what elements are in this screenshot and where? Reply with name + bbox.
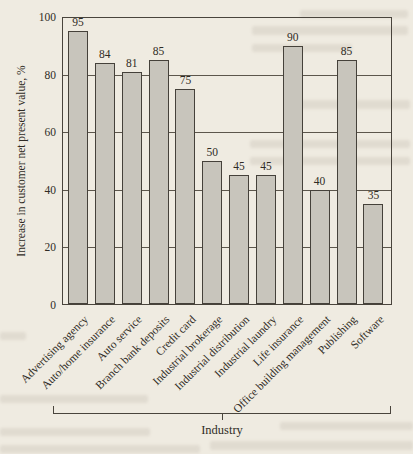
- bar-value-label-publishing: 85: [329, 45, 365, 58]
- y-tick-label-20: 20: [24, 240, 56, 254]
- bleed-through-text: [0, 428, 150, 436]
- bar-publishing: [337, 60, 357, 304]
- bleed-through-text: [0, 395, 148, 403]
- bar-value-label-industrial-brokerage: 50: [194, 146, 230, 159]
- y-tick-label-0: 0: [24, 298, 56, 312]
- y-tick-label-80: 80: [24, 68, 56, 82]
- industry-bracket-left-tick: [53, 406, 54, 413]
- bar-software: [363, 204, 383, 304]
- bleed-through-text: [0, 332, 26, 340]
- bar-value-label-branch-bank-deposits: 85: [141, 45, 177, 58]
- industry-bracket-center-tick: [222, 413, 223, 420]
- bar-value-label-credit-card: 75: [167, 74, 203, 87]
- bar-value-label-software: 35: [355, 189, 391, 202]
- bar-credit-card: [175, 89, 195, 304]
- bleed-through-text: [210, 441, 413, 450]
- bar-branch-bank-deposits: [149, 60, 169, 304]
- book-page-scan: Increase in customer net present value, …: [0, 0, 413, 454]
- bar-value-label-industrial-laundry: 45: [248, 160, 284, 173]
- bar-advertising-agency: [68, 31, 88, 304]
- bar-auto-home-insurance: [95, 63, 115, 304]
- bar-value-label-life-insurance: 90: [275, 31, 311, 44]
- bar-life-insurance: [283, 46, 303, 304]
- x-axis-group-label: Industry: [201, 423, 243, 438]
- bar-value-label-office-building-management: 40: [302, 175, 338, 188]
- bar-value-label-advertising-agency: 95: [60, 16, 96, 29]
- bleed-through-text: [280, 422, 413, 430]
- bleed-through-text: [0, 445, 200, 453]
- bar-auto-service: [122, 72, 142, 304]
- bar-industrial-brokerage: [202, 161, 222, 304]
- y-tick-label-40: 40: [24, 183, 56, 197]
- y-tick-label-60: 60: [24, 125, 56, 139]
- industry-bracket-right-tick: [390, 406, 391, 413]
- bar-value-label-auto-service: 81: [114, 57, 150, 70]
- y-axis-title: Increase in customer net present value, …: [15, 65, 27, 256]
- y-tick-label-100: 100: [24, 10, 56, 24]
- bar-industrial-distribution: [229, 175, 249, 304]
- bar-industrial-laundry: [256, 175, 276, 304]
- bar-office-building-management: [310, 190, 330, 304]
